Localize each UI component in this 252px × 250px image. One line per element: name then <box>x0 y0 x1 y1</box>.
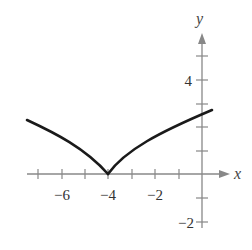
x-axis-arrow-icon <box>219 170 230 178</box>
x-axis-label: x <box>233 165 241 182</box>
curve-left-branch <box>27 120 108 174</box>
y-axis-label: y <box>194 10 204 28</box>
x-tick-label-neg4: −4 <box>100 187 116 203</box>
curve-right-branch <box>108 110 212 174</box>
graph: −6 −4 −2 4 −2 x y <box>0 0 252 250</box>
y-tick-label-neg2: −2 <box>178 215 194 231</box>
y-tick-label-4: 4 <box>185 73 193 89</box>
x-tick-label-neg2: −2 <box>147 187 163 203</box>
x-tick-label-neg6: −6 <box>54 187 70 203</box>
y-axis-arrow-icon <box>198 33 206 44</box>
